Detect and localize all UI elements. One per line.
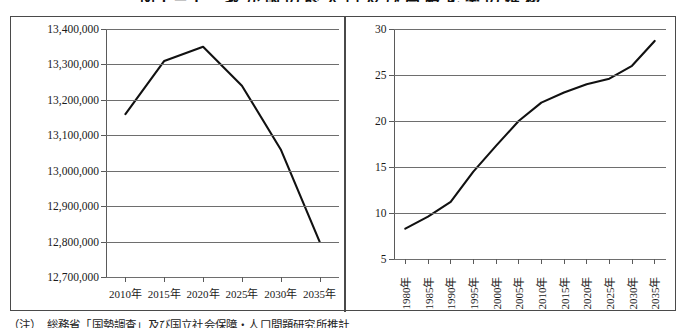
x-axis-tick <box>518 259 519 264</box>
gridline <box>106 135 339 136</box>
x-axis-tick <box>564 259 565 264</box>
x-axis-label: 2005年 <box>510 277 526 310</box>
x-axis-label: 2025年 <box>225 285 258 301</box>
x-axis-label: 2025年 <box>601 277 617 310</box>
figure-page: 図1－1 我が国の総人口及び高齢化率の推移 12,700,00012,800,0… <box>0 0 685 328</box>
x-axis-label: 2035年 <box>303 285 336 301</box>
gridline <box>394 75 666 76</box>
x-axis-tick <box>541 259 542 264</box>
gridline <box>394 121 666 122</box>
y-axis-tick <box>389 29 394 30</box>
y-axis-label: 20 <box>375 115 387 127</box>
x-axis-tick <box>654 259 655 264</box>
x-axis-tick <box>164 277 165 282</box>
x-axis-label: 2030年 <box>624 277 640 310</box>
figure-title: 図1－1 我が国の総人口及び高齢化率の推移 <box>0 0 685 2</box>
y-axis-tick <box>101 100 106 101</box>
gridline <box>394 29 666 30</box>
chart-panel-left: 12,700,00012,800,00012,900,00013,000,000… <box>11 17 344 312</box>
population-line-series <box>106 29 339 277</box>
gridline <box>106 29 339 30</box>
y-axis-tick <box>101 171 106 172</box>
x-axis-tick <box>281 277 282 282</box>
y-axis-label: 5 <box>381 253 387 265</box>
gridline <box>106 171 339 172</box>
x-axis-tick <box>473 259 474 264</box>
x-axis-tick <box>320 277 321 282</box>
x-axis-label: 1980年 <box>397 277 413 310</box>
y-axis-label: 12,800,000 <box>47 236 99 248</box>
y-axis-tick <box>101 242 106 243</box>
plot-area-aging-rate: 510152025301980年1985年1990年1995年2000年2005… <box>394 29 666 259</box>
x-axis-tick <box>242 277 243 282</box>
y-axis-tick <box>389 121 394 122</box>
y-axis-label: 15 <box>375 161 387 173</box>
y-axis-label: 25 <box>375 69 387 81</box>
gridline <box>106 277 339 278</box>
y-axis-tick <box>389 213 394 214</box>
gridline <box>394 259 666 260</box>
plot-area-population: 12,700,00012,800,00012,900,00013,000,000… <box>106 29 339 277</box>
x-axis-label: 2020年 <box>578 277 594 310</box>
gridline <box>106 100 339 101</box>
gridline <box>106 242 339 243</box>
y-axis-tick <box>389 167 394 168</box>
y-axis-label: 13,200,000 <box>47 94 99 106</box>
y-axis-tick <box>101 64 106 65</box>
aging-rate-line-series <box>394 29 666 259</box>
gridline <box>106 206 339 207</box>
y-axis-tick <box>389 75 394 76</box>
y-axis-label: 13,300,000 <box>47 58 99 70</box>
gridline <box>106 64 339 65</box>
gridline <box>394 167 666 168</box>
x-axis-label: 2035年 <box>646 277 662 310</box>
x-axis-label: 2010年 <box>109 285 142 301</box>
y-axis-label: 10 <box>375 207 387 219</box>
x-axis-tick <box>450 259 451 264</box>
x-axis-label: 2000年 <box>488 277 504 310</box>
x-axis-label: 1995年 <box>465 277 481 310</box>
x-axis-label: 1985年 <box>420 277 436 310</box>
figure-box: 12,700,00012,800,00012,900,00013,000,000… <box>10 16 676 311</box>
x-axis-label: 2010年 <box>533 277 549 310</box>
y-axis-label: 30 <box>375 23 387 35</box>
chart-panel-right: 510152025301980年1985年1990年1995年2000年2005… <box>346 17 678 312</box>
y-axis-label: 13,100,000 <box>47 129 99 141</box>
x-axis-tick <box>496 259 497 264</box>
gridline <box>394 213 666 214</box>
x-axis-label: 1990年 <box>442 277 458 310</box>
x-axis-label: 2030年 <box>264 285 297 301</box>
x-axis-tick <box>586 259 587 264</box>
x-axis-tick <box>203 277 204 282</box>
y-axis-label: 13,400,000 <box>47 23 99 35</box>
x-axis-tick <box>609 259 610 264</box>
x-axis-tick <box>428 259 429 264</box>
y-axis-tick <box>101 135 106 136</box>
y-axis-label: 13,000,000 <box>47 165 99 177</box>
x-axis-label: 2015年 <box>148 285 181 301</box>
x-axis-tick <box>632 259 633 264</box>
y-axis-tick <box>101 29 106 30</box>
x-axis-label: 2020年 <box>187 285 220 301</box>
x-axis-tick <box>405 259 406 264</box>
y-axis-label: 12,900,000 <box>47 200 99 212</box>
y-axis-tick <box>101 206 106 207</box>
x-axis-label: 2015年 <box>556 277 572 310</box>
y-axis-tick <box>389 259 394 260</box>
x-axis-tick <box>125 277 126 282</box>
y-axis-tick <box>101 277 106 278</box>
figure-caption: （注） 総務省「国勢調査」及び国立社会保障・人口問題研究所推計 <box>8 316 677 328</box>
y-axis-label: 12,700,000 <box>47 271 99 283</box>
